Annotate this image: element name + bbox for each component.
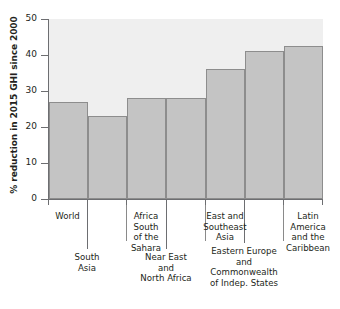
- x-category-label-east-and-southeast-asia: East and Southeast Asia: [203, 211, 247, 243]
- y-tick-label-50: 50: [11, 14, 37, 23]
- x-category-label-south-asia-line2: Asia: [64, 263, 110, 274]
- x-category-label-africa-line2: of the Sahara: [124, 232, 168, 253]
- x-category-label-world-line1: World: [48, 211, 87, 222]
- bar: [206, 69, 245, 199]
- bar: [88, 116, 127, 199]
- y-axis-line: [48, 19, 49, 200]
- x-category-label-eecis-line1: Eastern Europe: [204, 246, 284, 257]
- x-category-label-east-asia-line1: East and: [203, 211, 247, 222]
- x-category-label-africa-line1: Africa South: [124, 211, 168, 232]
- bar-chart-figure: % reduction in 2015 GHI since 2000 50 40…: [0, 0, 340, 309]
- label-stem-1: [87, 205, 88, 249]
- x-category-label-eecis-line4: of Indep. States: [204, 278, 284, 289]
- bar: [166, 98, 205, 199]
- y-tick-label-40: 40: [11, 50, 37, 59]
- x-category-label-near-east-line2: North Africa: [139, 273, 193, 284]
- y-axis-title: % reduction in 2015 GHI since 2000: [9, 5, 19, 205]
- bar: [284, 46, 323, 199]
- x-category-label-africa-south-of-the-sahara: Africa South of the Sahara: [124, 211, 168, 253]
- x-category-label-eastern-europe-cis: Eastern Europe and Commonwealth of Indep…: [204, 246, 284, 288]
- x-category-label-latin-line2: and the: [283, 232, 333, 243]
- y-tick-label-10: 10: [11, 158, 37, 167]
- x-category-label-south-asia: South Asia: [64, 252, 110, 273]
- x-category-label-east-asia-line2: Southeast Asia: [203, 222, 247, 243]
- y-tick-mark-30: [41, 91, 48, 92]
- x-category-label-near-east-and-north-africa: Near East and North Africa: [139, 252, 193, 284]
- y-tick-mark-0: [41, 199, 48, 200]
- x-tick-7: [322, 199, 323, 205]
- x-category-label-eecis-line2: and: [204, 257, 284, 268]
- y-tick-mark-20: [41, 127, 48, 128]
- y-tick-mark-50: [41, 19, 48, 20]
- x-category-label-latin-line1: Latin America: [283, 211, 333, 232]
- bar: [245, 51, 284, 199]
- y-tick-label-30: 30: [11, 86, 37, 95]
- y-tick-mark-10: [41, 163, 48, 164]
- y-tick-label-20: 20: [11, 122, 37, 131]
- plot-area: [48, 19, 323, 199]
- x-category-label-near-east-line1: Near East and: [139, 252, 193, 273]
- y-tick-label-0: 0: [11, 194, 37, 203]
- x-category-label-latin-line3: Caribbean: [283, 243, 333, 254]
- y-tick-mark-40: [41, 55, 48, 56]
- x-category-label-south-asia-line1: South: [64, 252, 110, 263]
- bar: [127, 98, 166, 199]
- bars-container: [49, 19, 323, 199]
- x-axis-line: [48, 199, 323, 200]
- x-category-label-eecis-line3: Commonwealth: [204, 267, 284, 278]
- bar: [49, 102, 88, 199]
- x-category-label-world: World: [48, 211, 87, 222]
- x-tick-0: [48, 199, 49, 205]
- x-category-label-latin-america-and-the-caribbean: Latin America and the Caribbean: [283, 211, 333, 253]
